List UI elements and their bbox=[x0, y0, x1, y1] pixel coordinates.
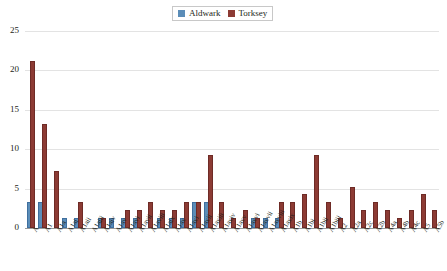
bar-group bbox=[214, 31, 226, 228]
bar-torksey-A1bii bbox=[314, 155, 319, 228]
bar-group bbox=[427, 31, 439, 228]
bar-group bbox=[155, 31, 167, 228]
bar-torksey-A1 bbox=[42, 124, 47, 228]
y-tick-label-5: 5 bbox=[1, 184, 19, 193]
bar-group bbox=[191, 31, 203, 228]
y-tick-label-15: 15 bbox=[1, 105, 19, 114]
bar-group bbox=[84, 31, 96, 228]
bar-torksey-A bbox=[30, 61, 35, 228]
x-axis-labels: AA1A1aA1aiA1aiiA1aiiiA1aivA1avA1aviA1avi… bbox=[25, 230, 439, 271]
bar-group bbox=[333, 31, 345, 228]
bar-group bbox=[96, 31, 108, 228]
bar-group bbox=[25, 31, 37, 228]
y-tick-label-20: 20 bbox=[1, 65, 19, 74]
bar-group bbox=[120, 31, 132, 228]
bar-group bbox=[344, 31, 356, 228]
bar-group bbox=[202, 31, 214, 228]
bar-group bbox=[285, 31, 297, 228]
bar-group bbox=[262, 31, 274, 228]
bar-group bbox=[131, 31, 143, 228]
bar-group bbox=[415, 31, 427, 228]
bar-group bbox=[321, 31, 333, 228]
bar-group bbox=[167, 31, 179, 228]
bar-group bbox=[108, 31, 120, 228]
x-tick-label-A1: A1 bbox=[44, 223, 54, 234]
bar-torksey-A1a bbox=[54, 171, 59, 228]
y-tick-label-10: 10 bbox=[1, 144, 19, 153]
bar-group bbox=[356, 31, 368, 228]
bar-group bbox=[60, 31, 72, 228]
bar-group bbox=[238, 31, 250, 228]
bars-container bbox=[25, 31, 439, 228]
y-tick-label-25: 25 bbox=[1, 26, 19, 35]
bar-group bbox=[404, 31, 416, 228]
bar-group bbox=[37, 31, 49, 228]
bar-group bbox=[250, 31, 262, 228]
x-tick-label-A5: A5 bbox=[422, 223, 432, 234]
bar-group bbox=[179, 31, 191, 228]
bar-group bbox=[143, 31, 155, 228]
bar-group bbox=[273, 31, 285, 228]
y-tick-label-0: 0 bbox=[1, 223, 19, 232]
bar-chart: Aldwark Torksey 0510152025 AA1A1aA1aiA1a… bbox=[0, 0, 447, 271]
bar-group bbox=[380, 31, 392, 228]
bar-group bbox=[309, 31, 321, 228]
bar-group bbox=[392, 31, 404, 228]
bar-group bbox=[49, 31, 61, 228]
bar-group bbox=[297, 31, 309, 228]
bar-group bbox=[226, 31, 238, 228]
bar-group bbox=[72, 31, 84, 228]
bar-group bbox=[368, 31, 380, 228]
